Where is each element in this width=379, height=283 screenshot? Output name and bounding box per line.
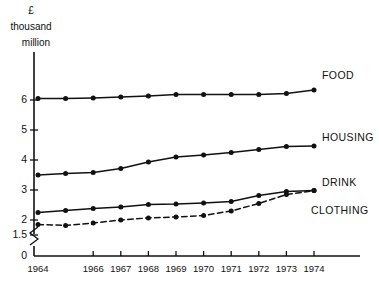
data-point xyxy=(146,94,151,99)
data-point xyxy=(229,150,234,155)
axis-break-icon xyxy=(30,227,38,245)
x-tick-label: 1966 xyxy=(83,263,104,274)
series-label-housing: HOUSING xyxy=(322,131,374,143)
data-point xyxy=(256,92,261,97)
y-tick-label: 6 xyxy=(21,93,27,105)
y-tick-label: 1.5 xyxy=(12,228,27,240)
data-point xyxy=(256,201,261,206)
data-point xyxy=(91,206,96,211)
data-point xyxy=(312,88,317,93)
y-axis-title-line1: £ xyxy=(28,5,34,16)
y-tick-label: 4 xyxy=(21,153,27,165)
data-point xyxy=(91,95,96,100)
y-axis-title-line2: thousand xyxy=(10,21,51,32)
y-axis-title-line3: million xyxy=(22,37,50,48)
data-point xyxy=(91,221,96,226)
x-tick-label: 1967 xyxy=(110,263,131,274)
data-point xyxy=(229,199,234,204)
x-tick-label: 1973 xyxy=(276,263,297,274)
series-label-clothing: CLOTHING xyxy=(311,204,368,216)
data-point xyxy=(256,147,261,152)
data-point xyxy=(118,95,123,100)
data-point xyxy=(63,96,68,101)
data-point xyxy=(118,166,123,171)
series-points-group xyxy=(36,88,317,228)
data-point xyxy=(146,160,151,165)
data-point xyxy=(118,205,123,210)
data-point xyxy=(229,209,234,214)
data-point xyxy=(284,192,289,197)
chart-container: £ thousand million 654321.50 19641966196… xyxy=(0,0,379,283)
y-tick-label: 0 xyxy=(21,249,27,261)
data-point xyxy=(63,171,68,176)
data-point xyxy=(174,202,179,207)
data-point xyxy=(174,215,179,220)
series-line-clothing xyxy=(38,191,314,226)
x-tick-label: 1974 xyxy=(303,263,324,274)
x-tick-label: 1972 xyxy=(248,263,269,274)
y-tick-label: 2 xyxy=(21,213,27,225)
data-point xyxy=(91,170,96,175)
x-tick-label: 1964 xyxy=(27,263,48,274)
data-point xyxy=(36,96,41,101)
series-line-drink xyxy=(38,191,314,213)
data-point xyxy=(146,215,151,220)
data-point xyxy=(36,210,41,215)
data-point xyxy=(174,155,179,160)
data-point xyxy=(118,218,123,223)
data-point xyxy=(312,188,317,193)
data-point xyxy=(174,92,179,97)
data-point xyxy=(201,92,206,97)
x-tick-label: 1971 xyxy=(221,263,242,274)
series-line-housing xyxy=(38,146,314,175)
data-point xyxy=(201,200,206,205)
x-tick-label: 1970 xyxy=(193,263,214,274)
line-chart: £ thousand million 654321.50 19641966196… xyxy=(0,0,379,283)
x-tick-label: 1969 xyxy=(165,263,186,274)
data-point xyxy=(201,213,206,218)
data-point xyxy=(256,193,261,198)
y-tick-label: 5 xyxy=(21,123,27,135)
y-axis-tick-labels: 654321.50 xyxy=(12,93,27,261)
data-point xyxy=(36,173,41,178)
series-label-drink: DRINK xyxy=(322,176,357,188)
x-axis-tick-labels: 1964196619671968196919701971197219731974 xyxy=(27,263,324,274)
data-point xyxy=(201,152,206,157)
data-point xyxy=(284,144,289,149)
data-point xyxy=(63,208,68,213)
data-point xyxy=(146,202,151,207)
data-point xyxy=(312,143,317,148)
data-point xyxy=(284,91,289,96)
data-point xyxy=(63,223,68,228)
series-label-food: FOOD xyxy=(322,69,354,81)
x-tick-label: 1968 xyxy=(138,263,159,274)
data-point xyxy=(229,92,234,97)
data-point xyxy=(36,222,41,227)
y-tick-label: 3 xyxy=(21,183,27,195)
